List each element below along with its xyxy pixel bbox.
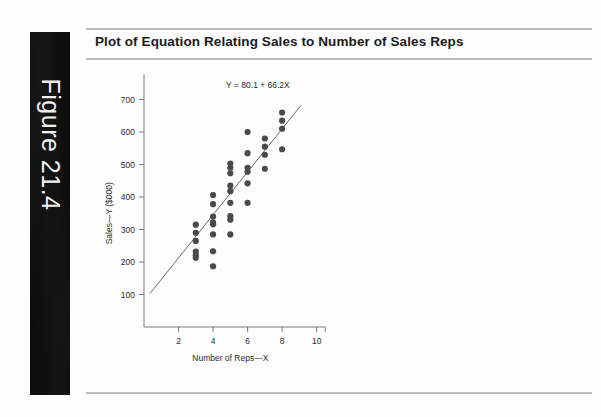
data-point (227, 160, 233, 166)
data-point (193, 238, 199, 244)
data-point (279, 118, 285, 124)
y-tick-label: 700 (121, 95, 135, 105)
data-point (210, 248, 216, 254)
data-point (210, 263, 216, 269)
data-point (262, 152, 268, 158)
data-point (227, 213, 233, 219)
y-tick-label: 400 (121, 192, 135, 202)
y-tick-label: 200 (121, 257, 135, 267)
data-point (244, 169, 250, 175)
x-tick-label: 2 (176, 336, 181, 346)
data-point (244, 180, 250, 186)
data-point (210, 201, 216, 207)
data-point (210, 231, 216, 237)
x-tick-label: 10 (312, 336, 322, 346)
data-point (210, 192, 216, 198)
y-axis-title: Sales—Y ($000) (104, 182, 114, 244)
data-point (193, 249, 199, 255)
data-point (227, 231, 233, 237)
data-point (262, 135, 268, 141)
data-point (227, 170, 233, 176)
x-tick-label: 6 (245, 336, 250, 346)
y-tick-label: 600 (121, 127, 135, 137)
y-tick-label: 100 (121, 290, 135, 300)
scatter-chart: 100200300400500600700246810Number of Rep… (0, 0, 601, 417)
data-point (227, 188, 233, 194)
y-tick-label: 300 (121, 225, 135, 235)
data-point (193, 222, 199, 228)
data-point (244, 150, 250, 156)
divider-under-title (86, 58, 592, 60)
data-point (244, 129, 250, 135)
data-point (262, 166, 268, 172)
regression-line (150, 105, 301, 293)
x-tick-label: 4 (211, 336, 216, 346)
page-title: Plot of Equation Relating Sales to Numbe… (95, 34, 464, 49)
figure-number-label: Figure 21.4 (36, 79, 65, 211)
x-axis-title: Number of Reps—X (192, 353, 268, 363)
data-point (227, 183, 233, 189)
data-point (244, 165, 250, 171)
equation-annotation: Y = 80.1 + 66.2X (226, 80, 290, 90)
data-point (193, 252, 199, 258)
figure-number-strip: Figure 21.4 (30, 32, 70, 395)
data-point (279, 146, 285, 152)
divider-bottom (86, 392, 592, 394)
data-point (279, 126, 285, 132)
data-point (193, 255, 199, 261)
divider-top (86, 28, 592, 30)
x-tick-label: 8 (280, 336, 285, 346)
data-point (210, 219, 216, 225)
data-point (244, 200, 250, 206)
page-canvas: Figure 21.4 Plot of Equation Relating Sa… (0, 0, 601, 417)
data-point (210, 213, 216, 219)
data-point (227, 165, 233, 171)
data-point (227, 217, 233, 223)
data-point (193, 230, 199, 236)
data-point (279, 109, 285, 115)
data-point (227, 200, 233, 206)
data-point (210, 221, 216, 227)
y-tick-label: 500 (121, 160, 135, 170)
data-point (262, 144, 268, 150)
